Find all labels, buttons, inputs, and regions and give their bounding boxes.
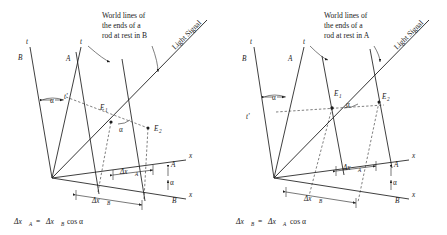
caption-rhs-sub: B <box>61 221 65 227</box>
t-axis-a-frame-label: A <box>287 55 293 63</box>
t-axis-a <box>274 47 304 178</box>
x-axis-a-frame-label: A <box>170 161 176 169</box>
annotation-line-1: World lines of <box>102 11 146 20</box>
caption-rhs-symbol: Δx <box>267 217 276 226</box>
annotation-leader-right <box>152 46 158 72</box>
caption-rhs-sub: A <box>282 221 287 227</box>
x-axis-b-label: x <box>188 191 193 199</box>
t-axis-a <box>52 47 81 178</box>
annotation-leader-left <box>310 46 328 60</box>
event-alpha-label: α <box>346 101 350 109</box>
caption-rhs-tail: cos α <box>290 217 306 226</box>
measure-delta-x-b-sub: B <box>319 198 323 204</box>
event-e2-sub: 2 <box>387 96 390 102</box>
worldline-rod-end-2 <box>370 49 392 168</box>
measure-delta-x-a <box>113 170 153 175</box>
measure-delta-x-a-label: Δx <box>119 168 128 176</box>
caption-equals: = <box>36 217 40 226</box>
event-alpha-label: α <box>119 126 123 134</box>
x-axis-a-frame-label: A <box>393 161 399 169</box>
annotation-line-3: rod at rest in A <box>324 31 370 40</box>
event-point-e2 <box>378 101 381 104</box>
caption-rhs-tail: cos α <box>67 217 83 226</box>
x-axis-b <box>52 178 186 199</box>
t-prime-label: t' <box>64 93 68 101</box>
t-axis-a-frame-label: A <box>65 55 71 63</box>
annotation-leader-right <box>374 46 380 62</box>
x-axis-b-frame-label: B <box>172 197 177 205</box>
event-e1-sub: 1 <box>105 107 108 113</box>
t-axis-a-label: t <box>80 38 83 46</box>
measure-delta-x-b-label: Δx <box>303 195 312 203</box>
event-e2-sub: 2 <box>159 128 162 134</box>
x-axis-a-label: x <box>411 152 416 160</box>
projection-e1 <box>309 108 332 196</box>
left-panel-diagram: World lines of the ends of a rod at rest… <box>0 0 224 235</box>
measure-delta-x-b-sub: B <box>107 200 111 206</box>
t-axis-b <box>30 47 52 178</box>
caption-lhs-sub: B <box>251 221 255 227</box>
annotation-line-1: World lines of <box>324 11 368 20</box>
alpha-time-label: α <box>50 97 54 105</box>
x-axis-b-label: x <box>411 191 416 199</box>
measure-delta-x-b-label: Δx <box>91 197 100 205</box>
annotation-leader-left <box>88 46 110 62</box>
event-point-e1 <box>109 120 112 123</box>
caption-equals: = <box>258 217 262 226</box>
t-axis-b-label: t <box>26 38 29 46</box>
caption-lhs-sub: A <box>28 221 33 227</box>
simultaneity-line-e1 <box>276 105 384 112</box>
caption-lhs-symbol: Δx <box>235 217 244 226</box>
right-panel-diagram: World lines of the ends of a rod at rest… <box>224 0 447 235</box>
t-axis-a-label: t <box>303 38 306 46</box>
t-prime-label: t' <box>246 113 250 121</box>
worldline-rod-end-1 <box>322 56 344 175</box>
event-e1-sub: 1 <box>339 93 342 99</box>
annotation-line-3: rod at rest in B <box>102 31 147 40</box>
light-signal-label: Light Signal <box>392 18 425 51</box>
t-axis-b-frame-label: B <box>242 55 247 63</box>
event-point-e1 <box>330 106 333 109</box>
t-axis-b <box>254 47 274 178</box>
event-point-e2 <box>147 127 150 130</box>
caption-lhs-symbol: Δx <box>13 217 22 226</box>
t-axis-b-frame-label: B <box>18 54 23 62</box>
caption-rhs-symbol: Δx <box>45 217 54 226</box>
alpha-time-label: α <box>272 94 276 102</box>
x-axis-b-frame-label: B <box>395 197 400 205</box>
annotation-line-2: the ends of a <box>102 21 141 30</box>
measure-delta-x-a-label: Δx <box>342 164 351 172</box>
x-alpha-label: α <box>393 179 397 187</box>
x-axis-a <box>52 160 186 178</box>
spacetime-diagram-figure: World lines of the ends of a rod at rest… <box>0 0 447 235</box>
worldline-rod-end-2 <box>122 59 145 201</box>
x-alpha-label: α <box>170 179 174 187</box>
projection-e2 <box>144 128 148 199</box>
projection-e1 <box>98 122 111 192</box>
t-axis-b-label: t <box>250 38 253 46</box>
worldline-rod-end-1 <box>76 52 99 194</box>
x-axis-a-label: x <box>188 152 193 160</box>
light-signal-label: Light Signal <box>170 18 203 51</box>
projection-e2 <box>358 102 379 202</box>
annotation-line-2: the ends of a <box>324 21 363 30</box>
x-axis-b <box>274 178 409 199</box>
